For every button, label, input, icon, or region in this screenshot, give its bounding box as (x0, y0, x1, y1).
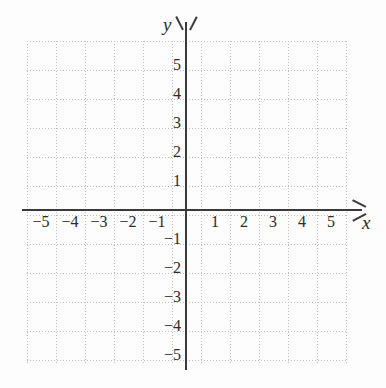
y-tick-label: −1 (155, 231, 181, 247)
gridline-vertical (85, 41, 86, 365)
y-tick-label: 4 (155, 86, 181, 102)
gridline-vertical (201, 41, 202, 365)
x-axis-line (22, 209, 362, 211)
y-tick-label: −3 (155, 289, 181, 305)
gridline-vertical (27, 41, 28, 365)
y-tick-label: 1 (155, 173, 181, 189)
x-tick-label: −2 (114, 214, 143, 230)
y-tick-label: 2 (155, 144, 181, 160)
gridline-vertical (259, 41, 260, 365)
gridline-vertical (346, 41, 347, 365)
gridline-vertical (114, 41, 115, 365)
y-tick-label: 3 (155, 115, 181, 131)
x-tick-label: 2 (230, 214, 259, 230)
y-tick-label: −4 (155, 318, 181, 334)
x-tick-label: 4 (288, 214, 317, 230)
x-tick-label: 1 (201, 214, 230, 230)
y-tick-label: −5 (155, 347, 181, 363)
gridline-vertical (56, 41, 57, 365)
x-tick-label: 3 (259, 214, 288, 230)
y-tick-label: 5 (155, 57, 181, 73)
gridline-vertical (230, 41, 231, 365)
y-axis-label: y (163, 14, 171, 36)
gridline-vertical (288, 41, 289, 365)
gridline-vertical (317, 41, 318, 365)
x-tick-label: −1 (143, 214, 172, 230)
x-tick-label: −4 (56, 214, 85, 230)
y-axis-line (185, 22, 187, 370)
y-axis-arrow-icon (179, 17, 193, 31)
coordinate-plane-figure: x y −5−4−3−2−112345 54321−1−2−3−4−5 (0, 0, 386, 388)
y-tick-label: −2 (155, 260, 181, 276)
x-tick-label: −3 (85, 214, 114, 230)
x-tick-label: −5 (27, 214, 56, 230)
x-axis-label: x (362, 212, 370, 234)
x-tick-label: 5 (317, 214, 346, 230)
gridline-vertical (143, 41, 144, 365)
